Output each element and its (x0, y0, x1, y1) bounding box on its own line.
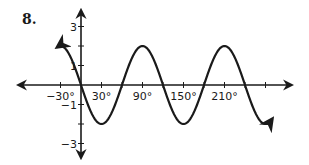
x-tick-label: 210° (211, 90, 238, 103)
sine-graph: −30°30°90°150°210°31−1−3 (0, 0, 309, 165)
x-tick-label: 30° (92, 90, 112, 103)
axes (18, 10, 292, 158)
y-tick-label: 3 (70, 21, 77, 34)
y-tick-label: −3 (61, 138, 77, 151)
x-tick-label: 150° (170, 90, 197, 103)
x-tick-label: 90° (133, 90, 153, 103)
y-tick-label: −1 (61, 99, 77, 112)
